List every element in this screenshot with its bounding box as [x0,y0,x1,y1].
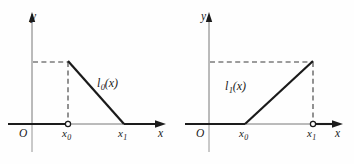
plot-panel-left: y x O x0 x1 l0(x) [0,0,177,164]
tick-label-x1-right: x1 [307,128,316,139]
plot-panel-right: y x O x0 x1 l1(x) [177,0,354,164]
function-label-l1-base: l [225,79,228,93]
figure-container: y x O x0 x1 l0(x) y [0,0,354,164]
function-line-l1 [245,61,313,124]
open-circle-marker-x1-right [310,121,315,126]
tick-label-x1-left: x1 [118,128,127,139]
origin-label-left: O [19,128,27,140]
tick-label-x1-right-sub: 1 [312,133,316,142]
tick-label-x1-left-sub: 1 [123,133,127,142]
function-label-l0-arg: (x) [105,76,118,90]
function-label-l1-arg: (x) [233,79,246,93]
origin-label-right: O [196,128,204,140]
function-line-l0 [68,61,124,124]
y-axis-label-left: y [31,11,36,23]
y-axis-label-right: y [201,11,206,23]
function-label-l0: l0(x) [97,77,118,89]
tick-label-x0-right: x0 [239,128,248,139]
y-axis-arrow-right [206,12,212,22]
function-label-l0-base: l [97,76,100,90]
x-axis-label-left: x [158,128,163,140]
tick-label-x0-right-sub: 0 [244,133,248,142]
tick-label-x0-left: x0 [62,128,71,139]
tick-label-x0-left-sub: 0 [67,133,71,142]
function-label-l1-sub: 1 [229,85,233,95]
open-circle-marker-x0-left [65,121,70,126]
x-axis-label-right: x [335,128,340,140]
function-label-l1: l1(x) [225,80,246,92]
function-label-l0-sub: 0 [101,82,105,92]
